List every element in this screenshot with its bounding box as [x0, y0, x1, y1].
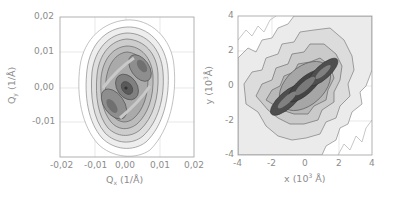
right-xtick: 4: [369, 159, 375, 168]
left-ylabel: Qy (1/Å): [7, 67, 18, 104]
right-contours: [238, 16, 372, 155]
right-xtick: -2: [267, 159, 276, 168]
right-ytick: 2: [228, 46, 234, 55]
left-xtick: 0,00: [115, 161, 135, 170]
right-ylabel: y (103Å): [203, 66, 214, 104]
left-xlabel: Qx (1/Å): [106, 175, 143, 186]
left-xtick: 0,02: [184, 161, 204, 170]
right-ytick: -2: [225, 116, 234, 125]
right-xtick: 0: [302, 159, 308, 168]
right-ytick: 4: [228, 11, 234, 20]
left-xtick: 0,01: [150, 161, 170, 170]
left-ytick: 0,00: [34, 83, 54, 92]
left-ytick: 0,01: [34, 47, 54, 56]
right-xtick: -4: [233, 159, 242, 168]
left-ytick: 0,02: [34, 12, 54, 21]
figure: 0,02 0,01 0,00 -0,01 -0,02 -0,01 0,00 0,…: [0, 0, 393, 198]
left-ytick: -0,01: [32, 117, 55, 126]
right-xtick: 2: [336, 159, 342, 168]
right-xlabel: x (103 Å): [284, 173, 326, 184]
right-ytick: 0: [228, 81, 234, 90]
left-xtick: -0,02: [50, 161, 73, 170]
left-contours: [79, 20, 175, 156]
left-xtick: -0,01: [84, 161, 107, 170]
